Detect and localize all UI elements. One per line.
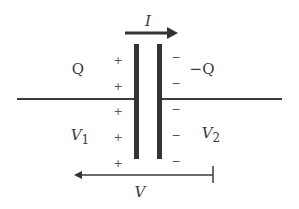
plus-sign: + (113, 80, 122, 93)
current-label: I (144, 12, 152, 30)
current-arrow (125, 27, 178, 39)
plus-sign: + (113, 54, 122, 67)
left-potential-subscript: 1 (82, 133, 90, 147)
minus-signs: − − − − − (171, 51, 180, 168)
left-plate (134, 44, 139, 159)
minus-sign: − (171, 103, 180, 116)
right-potential-label: V2 (202, 124, 220, 145)
minus-sign: − (171, 77, 180, 90)
voltage-arrow (74, 166, 213, 183)
plus-sign: + (113, 157, 122, 170)
right-charge-label: −Q (190, 60, 215, 78)
minus-sign: − (171, 155, 180, 168)
plus-sign: + (113, 131, 122, 144)
capacitor-diagram: I Q −Q V1 V2 + + + + + − − − − − V (0, 0, 299, 209)
plus-sign: + (113, 105, 122, 118)
minus-sign: − (171, 51, 180, 64)
minus-sign: − (171, 129, 180, 142)
arrowhead-right-icon (167, 27, 178, 39)
right-plate (157, 44, 162, 159)
voltage-label: V (135, 183, 148, 201)
plus-signs: + + + + + (113, 54, 122, 170)
left-potential-label: V1 (71, 126, 89, 147)
right-potential-subscript: 2 (213, 131, 221, 145)
arrowhead-left-icon (74, 171, 82, 179)
left-charge-label: Q (72, 60, 84, 78)
